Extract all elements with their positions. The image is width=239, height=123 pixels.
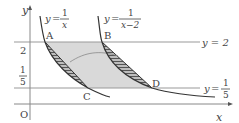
diagram: y x O 2 1 5 y = 1 x y = 1 x−2 y = 2 y = … [0, 0, 239, 123]
y-tick-1-5-num: 1 [20, 65, 26, 75]
point-a-label: A [45, 30, 54, 41]
line-y2-label: y = 2 [201, 37, 229, 48]
x-axis-label: x [216, 111, 223, 123]
point-c-label: C [83, 91, 91, 102]
curve2-label-lhs: y [103, 13, 110, 24]
line-y15-label-num: 1 [223, 78, 229, 88]
y-axis-arrow-icon [28, 5, 32, 10]
point-d-label: D [152, 78, 160, 89]
curve1-label-den: x [62, 20, 67, 30]
origin-label: O [20, 109, 28, 120]
curve2-label-eq: = [111, 13, 119, 24]
y-tick-2: 2 [20, 45, 26, 56]
curve1-label-eq: = [52, 13, 60, 24]
x-axis-arrow-icon [228, 102, 233, 106]
curve1-label-lhs: y [44, 13, 51, 24]
curve2-label-den: x−2 [121, 20, 140, 30]
line-y15-label-eq: = [211, 83, 219, 94]
y-axis-label: y [21, 4, 29, 17]
line-y15-label-den: 5 [223, 90, 229, 100]
line-y15-label-lhs: y [203, 83, 210, 94]
point-b-label: B [104, 30, 111, 41]
y-tick-1-5-den: 5 [20, 77, 26, 87]
curve2-label-num: 1 [128, 8, 134, 18]
diagram-canvas: y x O 2 1 5 y = 1 x y = 1 x−2 y = 2 y = … [0, 0, 239, 123]
curve1-label-num: 1 [62, 8, 68, 18]
